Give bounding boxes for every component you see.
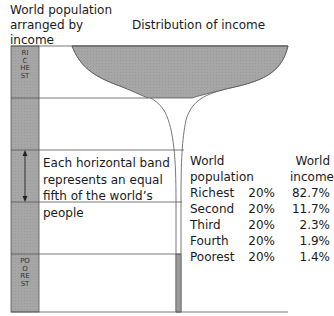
income-richest-fill xyxy=(72,46,288,98)
table-row: Richest 20% 82.7% xyxy=(190,185,330,201)
table-row: Fourth 20% 1.9% xyxy=(190,233,330,249)
income-table: World population World income Richest 20… xyxy=(190,153,330,273)
income-poorest-fill xyxy=(176,254,181,312)
header-income: World income xyxy=(290,153,330,185)
richest-vertical-label: RICHEST xyxy=(20,50,30,80)
table-row: Poorest 20% 1.4% xyxy=(190,249,330,265)
table-row: Second 20% 11.7% xyxy=(190,201,330,217)
header-population: World population xyxy=(190,153,270,185)
table-row: Third 20% 2.3% xyxy=(190,217,330,233)
band-explanation: Each horizontal band represents an equal… xyxy=(43,155,173,221)
poorest-vertical-label: POOREST xyxy=(20,258,30,288)
